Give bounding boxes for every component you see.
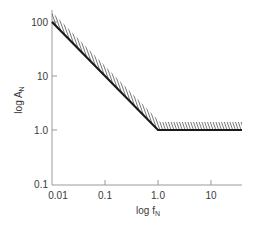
chart-canvas: 0.11.010100 0.010.11.010 log fN log AN — [0, 0, 258, 233]
hatch-stroke — [0, 0, 34, 233]
hatch-stroke — [187, 0, 258, 233]
hatch-stroke — [56, 0, 138, 233]
hatch-stroke — [0, 0, 45, 233]
y-tick-label: 100 — [31, 17, 48, 28]
hatch-region — [0, 0, 258, 233]
hatch-stroke — [0, 0, 81, 233]
hatch-stroke — [176, 0, 258, 233]
y-axis-label: log AN — [13, 86, 25, 113]
hatch-stroke — [0, 0, 25, 233]
hatch-stroke — [190, 0, 258, 233]
hatch-stroke — [0, 0, 11, 233]
hatch-stroke — [182, 0, 258, 233]
hatch-stroke — [28, 0, 110, 233]
hatch-stroke — [235, 0, 258, 233]
axes — [52, 10, 242, 185]
hatch-stroke — [0, 0, 14, 233]
y-tick-label: 1.0 — [34, 125, 48, 136]
hatch-stroke — [72, 0, 154, 233]
hatch-stroke — [238, 0, 258, 233]
hatch-stroke — [257, 0, 258, 233]
hatch-stroke — [224, 0, 258, 233]
hatch-stroke — [162, 0, 244, 233]
hatch-stroke — [179, 0, 258, 233]
y-tick-label: 0.1 — [34, 179, 48, 190]
hatch-stroke — [193, 0, 258, 233]
hatch-stroke — [0, 0, 31, 233]
hatch-stroke — [240, 0, 258, 233]
hatch-stroke — [0, 0, 28, 233]
hatch-stroke — [184, 0, 258, 233]
hatch-stroke — [0, 0, 8, 233]
hatch-stroke — [210, 0, 258, 233]
x-tick-label: 10 — [205, 190, 217, 201]
x-tick-label: 0.01 — [48, 190, 68, 201]
hatch-stroke — [106, 0, 188, 233]
hatch-stroke — [221, 0, 258, 233]
hatch-stroke — [128, 0, 210, 233]
hatch-stroke — [212, 0, 258, 233]
x-tick-label: 0.1 — [98, 190, 112, 201]
hatch-stroke — [249, 0, 258, 233]
hatch-stroke — [0, 0, 3, 233]
hatch-stroke — [246, 0, 258, 233]
x-ticks: 0.010.11.010 — [48, 180, 217, 201]
hatch-stroke — [254, 0, 258, 233]
hatch-stroke — [215, 0, 258, 233]
hatch-stroke — [0, 0, 42, 233]
hatch-stroke — [0, 0, 50, 233]
hatch-stroke — [109, 0, 191, 233]
hatch-stroke — [0, 0, 6, 233]
hatch-stroke — [226, 0, 258, 233]
hatch-stroke — [156, 0, 238, 233]
hatch-stroke — [0, 0, 36, 233]
hatch-stroke — [154, 0, 236, 233]
hatch-stroke — [0, 0, 39, 233]
hatch-stroke — [78, 0, 160, 233]
x-tick-label: 1.0 — [151, 190, 165, 201]
hatch-stroke — [0, 0, 22, 233]
hatch-stroke — [243, 0, 258, 233]
hatch-stroke — [5, 0, 87, 233]
hatch-stroke — [0, 0, 20, 233]
hatch-stroke — [0, 0, 17, 233]
hatch-stroke — [0, 0, 53, 233]
hatch-stroke — [100, 0, 182, 233]
y-ticks: 0.11.010100 — [31, 17, 57, 190]
hatch-stroke — [232, 0, 258, 233]
y-tick-label: 10 — [37, 71, 49, 82]
hatch-stroke — [229, 0, 258, 233]
hatch-stroke — [2, 0, 84, 233]
hatch-stroke — [218, 0, 258, 233]
hatch-stroke — [126, 0, 208, 233]
hatch-stroke — [0, 0, 48, 233]
x-axis-label: log fN — [136, 205, 160, 217]
hatch-stroke — [159, 0, 241, 233]
boundary-line — [52, 22, 242, 130]
hatch-stroke — [252, 0, 258, 233]
